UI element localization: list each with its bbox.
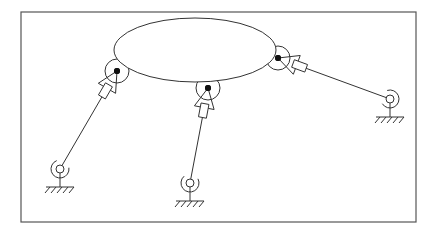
joint-center-dot (205, 85, 211, 91)
leg-rod (191, 117, 203, 179)
diagram-canvas (0, 0, 435, 233)
leg-rod (306, 68, 386, 97)
moving-platform (114, 18, 276, 82)
ground-hatch-icon (375, 117, 404, 123)
leg-middle (175, 76, 220, 207)
prismatic-actuator (292, 60, 308, 72)
leg-right (266, 46, 404, 123)
prismatic-actuator (198, 103, 208, 118)
ground-hatch-icon (175, 201, 204, 207)
prismatic-actuator (98, 83, 112, 99)
revolute-joint-pin (386, 95, 394, 103)
revolute-joint-pin (186, 179, 194, 187)
joint-center-dot (114, 68, 120, 74)
mechanism-diagram (0, 0, 435, 233)
ground-hatch-icon (45, 187, 74, 193)
leg-rod (62, 97, 102, 166)
revolute-joint-pin (56, 165, 64, 173)
joint-center-dot (275, 55, 281, 61)
leg-left (45, 59, 129, 193)
